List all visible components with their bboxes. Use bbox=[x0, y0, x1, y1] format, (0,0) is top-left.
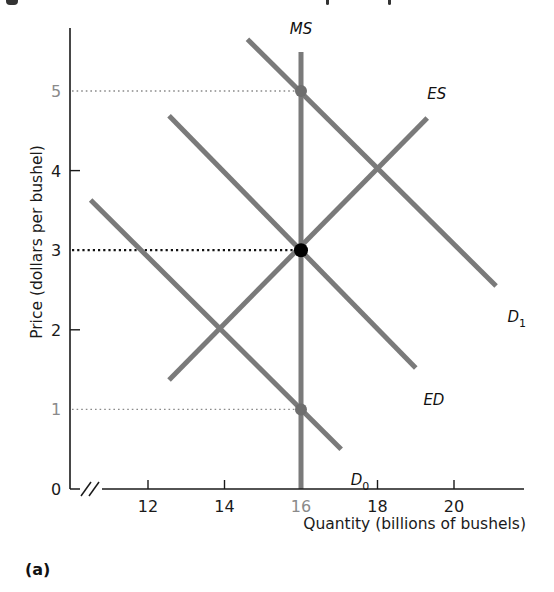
y-tick-label: 1 bbox=[51, 400, 61, 419]
clipped-text-fragment bbox=[6, 0, 18, 5]
axis-break-icon bbox=[80, 482, 102, 496]
ticks: 1214161820012345 bbox=[51, 82, 464, 516]
curve-label-d1: D1 bbox=[508, 308, 527, 330]
y-tick-label: 0 bbox=[51, 480, 61, 499]
x-tick-label: 12 bbox=[138, 497, 158, 516]
x-tick-label: 20 bbox=[444, 497, 464, 516]
curve-label-ms: MS bbox=[290, 20, 313, 38]
curves bbox=[91, 39, 496, 489]
x-tick-label: 16 bbox=[291, 497, 311, 516]
y-tick-label: 2 bbox=[51, 321, 61, 340]
curve-label-es: ES bbox=[427, 85, 446, 103]
curve-label-ed: ED bbox=[423, 391, 444, 409]
equilibrium-point bbox=[294, 243, 308, 257]
x-axis-title: Quantity (billions of bushels) bbox=[303, 515, 526, 533]
curve-d1 bbox=[247, 39, 496, 286]
clipped-text-fragment bbox=[388, 0, 391, 5]
clipped-text-fragment bbox=[326, 0, 329, 5]
panel-label: (a) bbox=[25, 560, 50, 579]
price-5-point bbox=[295, 85, 307, 97]
y-axis-title: Price (dollars per bushel) bbox=[28, 145, 46, 339]
chart: 1214161820012345 MSD1ESEDD0 Price (dolla… bbox=[0, 0, 554, 592]
x-tick-label: 18 bbox=[367, 497, 387, 516]
curve-labels: MSD1ESEDD0 bbox=[290, 20, 526, 493]
price-1-point bbox=[295, 403, 307, 415]
y-tick-label: 5 bbox=[51, 82, 61, 101]
y-tick-label: 3 bbox=[51, 241, 61, 260]
curve-ed bbox=[169, 116, 416, 368]
axes bbox=[70, 28, 524, 496]
y-tick-label: 4 bbox=[51, 162, 61, 181]
x-tick-label: 14 bbox=[214, 497, 234, 516]
